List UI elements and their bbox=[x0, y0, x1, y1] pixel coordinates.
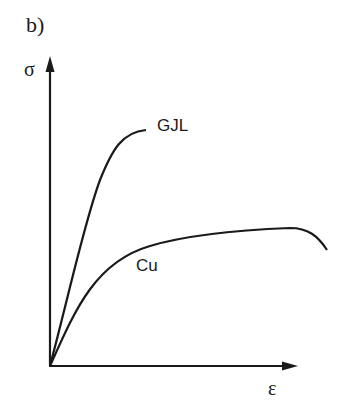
cu-curve-label: Cu bbox=[136, 256, 158, 276]
panel-label: b) bbox=[26, 12, 44, 38]
x-axis-label: ε bbox=[268, 377, 276, 400]
stress-strain-diagram: b) σ ε GJL Cu bbox=[0, 0, 342, 402]
gjl-curve bbox=[50, 130, 146, 366]
x-axis-arrow-icon bbox=[282, 362, 298, 371]
cu-curve bbox=[50, 228, 327, 366]
y-axis-label: σ bbox=[24, 58, 35, 81]
diagram-canvas bbox=[0, 0, 342, 402]
gjl-curve-label: GJL bbox=[157, 116, 188, 136]
y-axis-arrow-icon bbox=[46, 56, 55, 72]
